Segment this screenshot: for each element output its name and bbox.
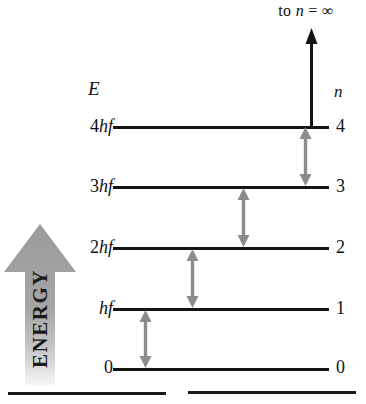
n-label-n4: 4 — [336, 116, 345, 137]
bottom-rule-right — [188, 391, 356, 394]
energy-label-n4-text: 4hf — [90, 116, 113, 136]
energy-label-n4: 4hf — [41, 116, 113, 137]
energy-label-n1-text: hf — [99, 298, 113, 318]
n-label-n3: 3 — [336, 176, 345, 197]
energy-label-n3-text: 3hf — [90, 176, 113, 196]
n-label-n2: 2 — [336, 237, 345, 258]
transition-arrow-1-to-0 — [138, 309, 153, 369]
transition-arrow-2-to-1 — [185, 248, 200, 309]
energy-label-n3: 3hf — [41, 176, 113, 197]
level-line-n4 — [113, 126, 329, 129]
to-infinity-prefix: to — [278, 2, 295, 19]
quantum-number-axis-header: n — [334, 82, 343, 102]
infinity-arrow-icon — [305, 28, 318, 128]
transition-arrow-4-to-3 — [298, 126, 313, 187]
n-label-n0: 0 — [336, 357, 345, 378]
level-line-n2 — [113, 247, 329, 250]
n-label-n1: 1 — [336, 298, 345, 319]
energy-label-n2-text: 2hf — [90, 237, 113, 257]
to-infinity-suffix: = ∞ — [304, 2, 334, 19]
bottom-rule-left — [8, 392, 166, 395]
to-infinity-label: to n = ∞ — [248, 2, 364, 20]
level-line-n3 — [113, 186, 329, 189]
energy-axis-header: E — [88, 78, 100, 100]
to-infinity-symbol: n — [296, 2, 304, 19]
energy-level-diagram: to n = ∞ E n 4hf 4 3hf 3 2hf 2 hf 1 0 0 — [0, 0, 366, 404]
transition-arrow-3-to-2 — [236, 187, 251, 248]
energy-direction-arrow-icon — [2, 222, 78, 388]
